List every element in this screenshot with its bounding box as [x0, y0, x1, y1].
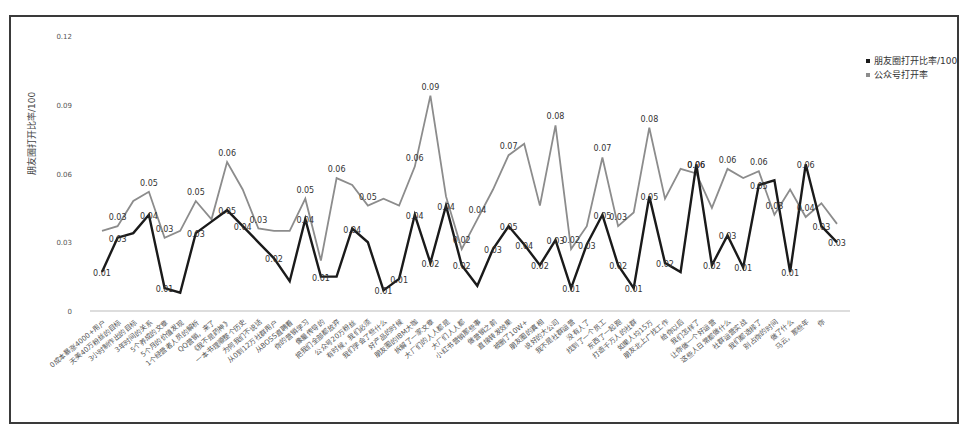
svg-text:你: 你: [815, 318, 826, 329]
data-label: 0.04: [437, 203, 455, 212]
data-label: 0.01: [312, 274, 330, 283]
data-label: 0.06: [406, 154, 424, 163]
data-label: 0.04: [406, 212, 424, 221]
y-tick-label: 0.09: [56, 102, 72, 110]
data-label: 0.03: [812, 223, 830, 232]
data-label: 0.05: [500, 223, 518, 232]
data-label: 0.02: [453, 236, 471, 245]
data-label: 0.04: [515, 242, 533, 251]
data-label: 0.05: [140, 179, 158, 188]
legend-item-official-account: 公众号打开率: [866, 68, 957, 82]
data-label: 0.03: [109, 235, 127, 244]
line-chart: 00.030.060.090.120.010.030.040.010.030.0…: [0, 0, 980, 440]
data-label: 0.03: [609, 213, 627, 222]
data-label: 0.01: [562, 285, 580, 294]
legend-label: 朋友圈打开比率/100: [874, 54, 957, 68]
data-label: 0.07: [500, 142, 518, 151]
data-label: 0.03: [719, 232, 737, 241]
data-label: 0.03: [578, 242, 596, 251]
data-label: 0.03: [249, 216, 267, 225]
data-label: 0.03: [484, 246, 502, 255]
data-label: 0.01: [734, 264, 752, 273]
data-label: 0.05: [187, 188, 205, 197]
data-label: 0.03: [156, 225, 174, 234]
data-label: 0.07: [594, 144, 612, 153]
data-label: 0.03: [828, 239, 846, 248]
data-label: 0.02: [265, 255, 283, 264]
data-label: 0.05: [640, 193, 658, 202]
legend-swatch-gray: [866, 73, 870, 77]
data-label: 0.03: [187, 230, 205, 239]
data-label: 0.06: [750, 158, 768, 167]
data-label: 0.05: [218, 207, 236, 216]
data-label: 0.04: [296, 216, 314, 225]
data-label: 0.04: [234, 223, 252, 232]
data-label: 0.02: [656, 260, 674, 269]
data-label: 0.06: [797, 161, 815, 170]
data-label: 0.04: [468, 206, 486, 215]
data-label: 0.01: [390, 276, 408, 285]
series-line-moments: [102, 164, 837, 292]
data-label: 0.01: [375, 287, 393, 296]
data-label: 0.04: [343, 226, 361, 235]
y-axis-label: 朋友圈打开比率/100: [25, 92, 38, 175]
y-tick-label: 0.03: [56, 239, 72, 247]
data-label: 0.01: [156, 285, 174, 294]
data-label: 0.02: [609, 262, 627, 271]
y-tick-label: 0.06: [56, 171, 72, 179]
data-label: 0.04: [797, 204, 815, 213]
y-tick-label: 0: [68, 308, 72, 316]
legend-label: 公众号打开率: [874, 68, 928, 82]
data-label: 0.01: [625, 285, 643, 294]
data-label: 0.06: [687, 161, 705, 170]
x-tick-label: 你: [815, 318, 826, 329]
data-label: 0.03: [766, 202, 784, 211]
data-label: 0.02: [421, 260, 439, 269]
legend-item-moments: 朋友圈打开比率/100: [866, 54, 957, 68]
data-label: 0.08: [640, 115, 658, 124]
data-label: 0.02: [531, 262, 549, 271]
data-label: 0.01: [93, 269, 111, 278]
data-label: 0.06: [719, 156, 737, 165]
data-label: 0.04: [140, 212, 158, 221]
data-label: 0.05: [359, 193, 377, 202]
data-label: 0.06: [218, 149, 236, 158]
data-label: 0.05: [296, 186, 314, 195]
data-label: 0.06: [328, 165, 346, 174]
data-label: 0.09: [421, 83, 439, 92]
data-label: 0.02: [562, 236, 580, 245]
data-label: 0.01: [781, 269, 799, 278]
legend: 朋友圈打开比率/100 公众号打开率: [866, 54, 957, 82]
data-label: 0.02: [453, 262, 471, 271]
data-label: 0.05: [750, 182, 768, 191]
data-label: 0.03: [109, 213, 127, 222]
y-tick-label: 0.12: [56, 33, 72, 41]
legend-swatch-black: [866, 59, 870, 63]
data-label: 0.08: [547, 112, 565, 121]
data-label: 0.02: [703, 262, 721, 271]
